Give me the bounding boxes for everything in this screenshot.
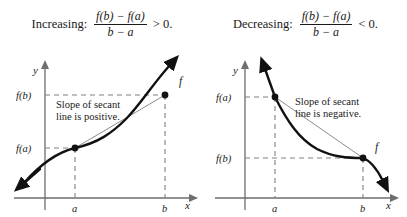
function-curve-tail-arrow [24,169,40,183]
x-axis-label: x [184,199,190,211]
y-axis-label: y [232,64,238,76]
caption-increasing-numerator: f(b) − f(a) [94,10,147,24]
x-tick-label-b: b [360,203,365,214]
y-tick-label-fb: f(b) [16,90,32,102]
secant-note-line2: line is negative. [295,108,361,119]
x-tick-label-a: a [72,203,77,214]
caption-increasing-relation: > 0. [153,17,173,32]
y-tick-label-fa: f(a) [16,143,32,155]
caption-increasing-word: Increasing: [32,17,88,32]
caption-decreasing-relation: < 0. [358,17,378,32]
point-b [162,92,169,99]
caption-decreasing-numerator: f(b) − f(a) [300,10,353,24]
curve-label-f: f [179,75,184,88]
x-tick-label-b: b [162,203,167,214]
caption-increasing-denominator: b − a [105,25,135,39]
graph-increasing: y x f(b) f(a) a b f Slope of secant line… [0,55,204,217]
function-curve [24,65,170,183]
point-a [72,145,79,152]
caption-decreasing: Decreasing: f(b) − f(a) b − a < 0. [204,10,407,38]
caption-increasing-fraction: f(b) − f(a) b − a [94,10,147,38]
caption-decreasing-word: Decreasing: [233,17,293,32]
point-a [272,94,279,101]
function-curve-tail-arrow [363,158,383,181]
x-tick-label-a: a [272,203,277,214]
x-axis-label: x [385,199,391,211]
point-b [360,155,367,162]
secant-note-line2: line is positive. [56,111,120,122]
graph-increasing-svg: y x f(b) f(a) a b f Slope of secant line… [0,55,204,217]
caption-increasing: Increasing: f(b) − f(a) b − a > 0. [0,10,204,38]
graph-decreasing-svg: y x f(a) f(b) a b f Slope of secant line… [203,55,407,217]
curve-label-f: f [375,141,380,154]
y-tick-label-fb: f(b) [216,153,232,165]
secant-note-line1: Slope of secant [56,99,120,110]
caption-decreasing-denominator: b − a [311,25,341,39]
secant-note-line1: Slope of secant [295,96,359,107]
graph-decreasing: y x f(a) f(b) a b f Slope of secant line… [203,55,407,217]
figure-increasing-decreasing: Increasing: f(b) − f(a) b − a > 0. Decre… [0,0,407,217]
y-axis-label: y [32,64,38,76]
function-curve-head-arrow [265,69,275,97]
y-tick-label-fa: f(a) [216,92,232,104]
caption-decreasing-fraction: f(b) − f(a) b − a [300,10,353,38]
